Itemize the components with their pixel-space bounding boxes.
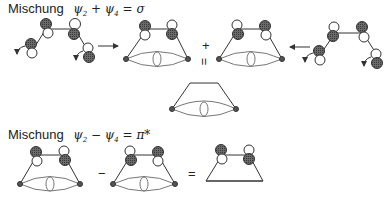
orbital-diagram: [0, 0, 387, 197]
trapezoid-d: [111, 146, 178, 191]
right-zigzag-molecule: [305, 22, 383, 69]
pi-star-result-trapezoid: [206, 145, 263, 182]
trapezoid-a: [124, 20, 191, 67]
left-zigzag-molecule: [17, 19, 95, 63]
trapezoid-c: [18, 146, 83, 191]
trapezoid-b: [217, 20, 285, 67]
sigma-result-trapezoid: [170, 83, 239, 117]
